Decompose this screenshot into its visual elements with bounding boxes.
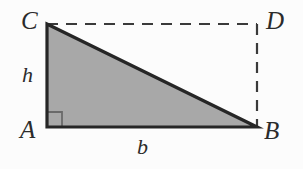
- side-label-base: b: [137, 136, 148, 158]
- vertex-label-c: C: [21, 8, 38, 33]
- vertex-label-a: A: [20, 117, 35, 142]
- vertex-label-d: D: [266, 8, 284, 33]
- diagram-canvas: [0, 0, 303, 169]
- vertex-label-b: B: [264, 118, 279, 143]
- side-label-height: h: [22, 64, 33, 86]
- geometry-figure: C D A B h b: [0, 0, 303, 169]
